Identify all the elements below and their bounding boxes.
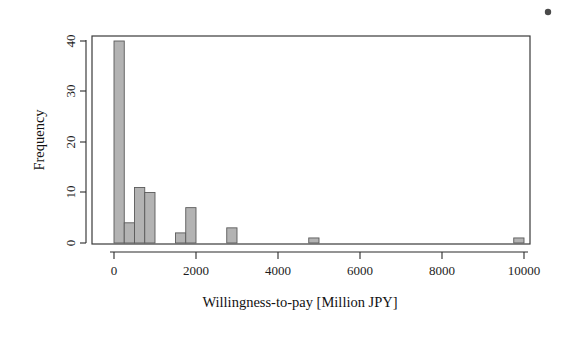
histogram-bar [176,233,186,243]
histogram-bar [309,238,319,243]
x-tick-label-2000: 2000 [183,263,209,278]
y-tick-label-30: 30 [63,85,78,98]
scan-speck-icon [545,9,551,15]
x-tick-label-6000: 6000 [347,263,373,278]
plot-frame [92,36,530,244]
histogram-bar [145,193,155,244]
y-axis: 0 10 20 30 40 [63,35,86,247]
x-tick-label-8000: 8000 [429,263,455,278]
y-tick-label-10: 10 [63,186,78,199]
x-tick-label-10000: 10000 [508,263,541,278]
chart-svg: 0 10 20 30 40 0 2000 4000 6000 8000 1000… [0,0,572,344]
y-tick-label-40: 40 [63,35,78,48]
y-tick-label-20: 20 [63,136,78,149]
histogram-figure: 0 10 20 30 40 0 2000 4000 6000 8000 1000… [0,0,572,344]
bar-series [114,41,524,243]
y-tick-label-0: 0 [63,240,78,247]
histogram-bar [135,187,145,243]
x-axis-title: Willingness-to-pay [Million JPY] [202,294,397,310]
x-tick-label-4000: 4000 [265,263,291,278]
x-tick-label-0: 0 [111,263,118,278]
x-axis: 0 2000 4000 6000 8000 10000 [110,252,540,278]
y-axis-title: Frequency [31,109,47,171]
histogram-bar [186,208,196,243]
histogram-bar [124,223,134,243]
histogram-bar [114,41,124,243]
histogram-bar [514,238,524,243]
histogram-bar [227,228,237,243]
